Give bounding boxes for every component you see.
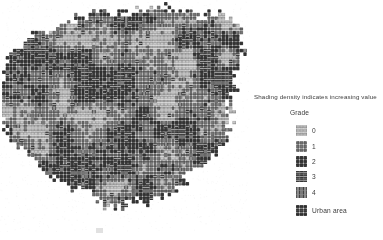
legend-swatch-grade-4 <box>296 187 307 198</box>
legend-item-grade-0: 0 <box>296 123 347 138</box>
legend-caption: Shading density indicates increasing val… <box>254 93 377 100</box>
legend-title: Grade <box>290 109 309 116</box>
grid-choropleth-map <box>0 0 250 232</box>
legend-swatch-urban-area <box>296 205 307 216</box>
figure-root: Shading density indicates increasing val… <box>0 0 383 240</box>
legend-swatch-grade-1 <box>296 141 307 152</box>
legend-label-grade-2: 2 <box>312 158 316 165</box>
legend-swatch-grade-0 <box>296 125 307 136</box>
legend-item-grade-2: 2 <box>296 154 347 169</box>
legend-item-grade-3: 3 <box>296 169 347 184</box>
legend-item-grade-1: 1 <box>296 138 347 153</box>
legend-swatch-grade-2 <box>296 156 307 167</box>
map-legend: Shading density indicates increasing val… <box>246 90 383 220</box>
legend-item-list: 0 1 2 3 4 Urban area <box>296 123 347 218</box>
legend-item-grade-4: 4 <box>296 185 347 200</box>
legend-item-urban-area: Urban area <box>296 203 347 218</box>
legend-swatch-grade-3 <box>296 171 307 182</box>
legend-label-grade-4: 4 <box>312 189 316 196</box>
legend-label-urban-area: Urban area <box>312 207 347 214</box>
scan-artifact-speck <box>96 228 103 233</box>
legend-label-grade-1: 1 <box>312 143 316 150</box>
legend-label-grade-3: 3 <box>312 173 316 180</box>
legend-label-grade-0: 0 <box>312 127 316 134</box>
